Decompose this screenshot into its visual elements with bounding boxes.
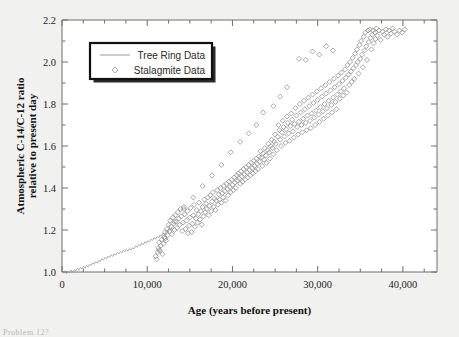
y-axis-title-line2: relative to present day (26, 93, 38, 198)
x-tick-label: 10,000 (133, 279, 162, 290)
figure-caption: Problem 12? (3, 328, 49, 337)
x-tick-label: 0 (59, 279, 64, 290)
y-tick-label: 1.0 (43, 267, 56, 278)
legend-label-tree-ring: Tree Ring Data (138, 50, 206, 61)
y-tick-label: 1.2 (43, 225, 56, 236)
y-tick-label: 1.4 (43, 183, 57, 194)
x-tick-label: 20,000 (218, 279, 247, 290)
x-axis-title: Age (years before present) (188, 304, 312, 317)
y-tick-label: 2.0 (43, 57, 56, 68)
x-tick-label: 30,000 (303, 279, 332, 290)
y-tick-label: 2.2 (43, 15, 56, 26)
y-axis-title-line1: Atmospheric C-14/C-12 ratio (14, 77, 26, 214)
x-tick-label: 40,000 (388, 279, 417, 290)
y-tick-label: 1.8 (43, 99, 56, 110)
y-tick-label: 1.6 (43, 141, 56, 152)
legend-label-stalagmite: Stalagmite Data (134, 65, 206, 76)
